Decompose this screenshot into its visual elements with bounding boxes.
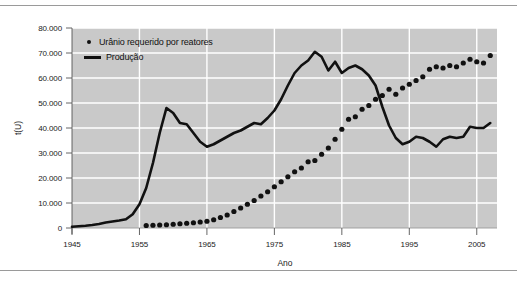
data-point [198,219,203,224]
data-point [279,179,284,184]
y-tick-label: 40.000 [0,124,62,133]
data-point [245,202,250,207]
data-point [231,209,236,214]
legend-label-uranio: Urânio requerido por reatores [99,37,213,47]
y-tick-label: 70.000 [0,49,62,58]
data-point [306,159,311,164]
data-point [184,221,189,226]
x-tick-label: 1965 [198,240,215,249]
data-point [164,222,169,227]
chart-plot-svg [0,0,517,281]
x-tick-label: 1985 [333,240,350,249]
x-tick-label: 2005 [468,240,485,249]
data-point [440,65,445,70]
data-point [292,169,297,174]
data-point [393,92,398,97]
data-point [238,205,243,210]
data-point [332,137,337,142]
data-point [427,67,432,72]
y-tick-label: 60.000 [0,74,62,83]
data-point [171,222,176,227]
data-point [447,63,452,68]
chart-legend: Urânio requerido por reatores Produção [84,36,213,63]
data-point [366,103,371,108]
data-point [150,223,155,228]
x-axis-title: Ano [277,258,292,268]
x-tick-label: 1995 [401,240,418,249]
y-tick-label: 10.000 [0,199,62,208]
data-point [386,87,391,92]
data-point [400,85,405,90]
data-point [474,59,479,64]
x-tick-label: 1955 [131,240,148,249]
data-point [272,184,277,189]
data-point [481,60,486,65]
data-point [420,74,425,79]
chart-figure: t(U) Ano Urânio requerido por reatores P… [0,0,517,281]
data-point [177,221,182,226]
y-tick-label: 80.000 [0,24,62,33]
data-point [252,198,257,203]
data-point [285,174,290,179]
legend-label-producao: Produção [106,52,143,62]
data-point [319,152,324,157]
data-point [218,215,223,220]
line-marker-icon [84,56,101,59]
data-point [373,97,378,102]
y-tick-label: 30.000 [0,149,62,158]
data-point [204,219,209,224]
data-point [413,78,418,83]
data-point [258,193,263,198]
data-point [407,82,412,87]
data-point [265,189,270,194]
x-tick-label: 1975 [266,240,283,249]
data-point [191,220,196,225]
data-point [454,64,459,69]
data-point [488,53,493,58]
data-point [157,222,162,227]
data-point [326,145,331,150]
data-point [434,64,439,69]
x-tick-label: 1945 [63,240,80,249]
data-point [461,60,466,65]
y-tick-label: 0 [0,224,62,233]
data-point [353,114,358,119]
data-point [359,107,364,112]
dot-marker-icon [84,40,94,44]
data-point [225,212,230,217]
legend-item-producao: Produção [84,51,213,63]
data-point [346,117,351,122]
data-point [312,158,317,163]
data-point [467,57,472,62]
y-tick-label: 20.000 [0,174,62,183]
legend-item-uranio: Urânio requerido por reatores [84,36,213,48]
y-tick-label: 50.000 [0,99,62,108]
data-point [299,165,304,170]
data-point [211,217,216,222]
data-point [339,127,344,132]
data-point [144,223,149,228]
